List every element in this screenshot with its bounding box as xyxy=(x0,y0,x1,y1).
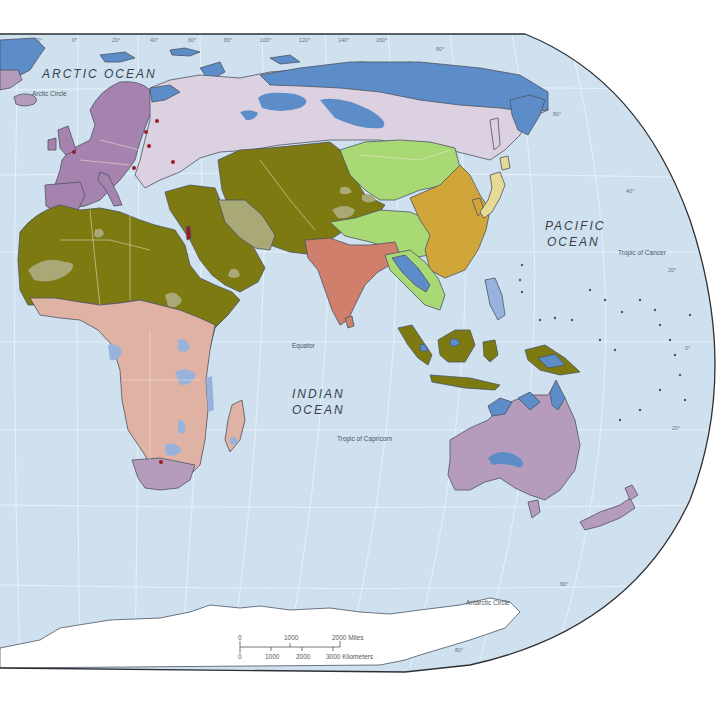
lat-tick: 60° xyxy=(560,581,568,587)
pacific-ocean-label-1: PACIFIC xyxy=(545,219,605,233)
world-map: ARCTIC OCEAN PACIFIC OCEAN INDIAN OCEAN … xyxy=(0,0,719,708)
lon-tick: 100° xyxy=(260,37,271,43)
lat-tick: 0° xyxy=(685,345,690,351)
scale-km-2000: 2000 xyxy=(296,653,311,660)
lon-tick: 40° xyxy=(150,37,158,43)
scale-km-0: 0 xyxy=(238,653,242,660)
lon-tick: 0° xyxy=(72,37,77,43)
lat-tick: 80° xyxy=(553,111,561,117)
scale-mile-2000: 2000 Miles xyxy=(332,634,364,641)
lon-tick: 160° xyxy=(376,37,387,43)
equator-label: Equator xyxy=(292,342,316,350)
scale-km-3000: 3000 Kilometers xyxy=(326,653,374,660)
indian-ocean-label-1: INDIAN xyxy=(292,387,345,401)
lon-tick: 80° xyxy=(224,37,232,43)
pacific-ocean-label-2: OCEAN xyxy=(547,235,600,249)
map-canvas: ARCTIC OCEAN PACIFIC OCEAN INDIAN OCEAN … xyxy=(0,0,719,708)
scale-mile-0: 0 xyxy=(238,634,242,641)
lat-tick: 40° xyxy=(626,188,634,194)
indian-ocean-label-2: OCEAN xyxy=(292,403,345,417)
tropic-of-cancer-label: Tropic of Cancer xyxy=(618,249,667,257)
lat-tick: 20° xyxy=(672,425,680,431)
lat-tick: 20° xyxy=(668,267,676,273)
lat-tick: 80° xyxy=(436,46,444,52)
lon-tick: 20° xyxy=(112,37,120,43)
arctic-ocean-label: ARCTIC OCEAN xyxy=(41,67,157,81)
lon-tick: 120° xyxy=(299,37,310,43)
scale-mile-1000: 1000 xyxy=(284,634,299,641)
lon-tick: 140° xyxy=(338,37,349,43)
tropic-of-capricorn-label: Tropic of Capricorn xyxy=(337,435,392,443)
scale-km-1000: 1000 xyxy=(265,653,280,660)
lon-tick: 60° xyxy=(188,37,196,43)
lat-tick: 80° xyxy=(455,647,463,653)
lon-tick: 20° xyxy=(34,37,42,43)
arctic-circle-label: Arctic Circle xyxy=(32,90,67,97)
antarctic-circle-label: Antarctic Circle xyxy=(466,599,510,606)
